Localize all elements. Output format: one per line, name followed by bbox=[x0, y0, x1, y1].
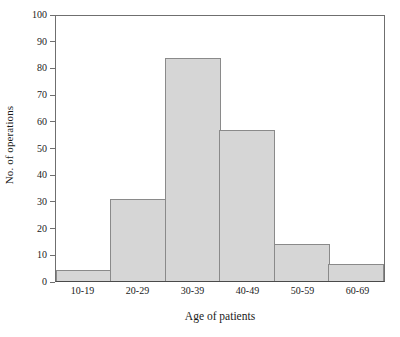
y-tick-label: 20 bbox=[37, 224, 50, 234]
y-tick-label: 80 bbox=[37, 63, 50, 73]
x-tick-label-60-69: 60-69 bbox=[330, 285, 385, 296]
bar-10-19[interactable] bbox=[56, 270, 112, 281]
y-tick-label: 0 bbox=[42, 277, 50, 287]
y-tick-label: 100 bbox=[32, 10, 50, 20]
y-tick-label: 60 bbox=[37, 117, 50, 127]
y-tick-label: 90 bbox=[37, 37, 50, 47]
x-tick-label-40-49: 40-49 bbox=[220, 285, 275, 296]
y-axis-title-text: No. of operations bbox=[3, 106, 15, 184]
y-tick-label: 70 bbox=[37, 90, 50, 100]
x-axis-title: Age of patients bbox=[55, 310, 385, 322]
x-tick-label-50-59: 50-59 bbox=[275, 285, 330, 296]
y-tick-label: 50 bbox=[37, 144, 50, 154]
y-axis-title: No. of operations bbox=[0, 0, 18, 290]
plot-area bbox=[55, 15, 385, 282]
x-axis-ticks: 10-19 20-29 30-39 40-49 50-59 60-69 bbox=[55, 285, 385, 296]
bar-40-49[interactable] bbox=[219, 130, 275, 281]
bar-30-39[interactable] bbox=[165, 58, 221, 281]
y-tick-label: 30 bbox=[37, 197, 50, 207]
y-tick-label: 40 bbox=[37, 170, 50, 180]
bars-layer bbox=[56, 16, 384, 281]
x-tick-label-20-29: 20-29 bbox=[110, 285, 165, 296]
x-tick-label-30-39: 30-39 bbox=[165, 285, 220, 296]
bar-20-29[interactable] bbox=[110, 199, 166, 281]
bar-60-69[interactable] bbox=[328, 264, 384, 281]
x-tick-label-10-19: 10-19 bbox=[55, 285, 110, 296]
histogram-chart: No. of operations 100 90 80 70 60 50 40 bbox=[0, 0, 400, 337]
bar-50-59[interactable] bbox=[274, 244, 330, 281]
y-tick-label: 10 bbox=[37, 250, 50, 260]
